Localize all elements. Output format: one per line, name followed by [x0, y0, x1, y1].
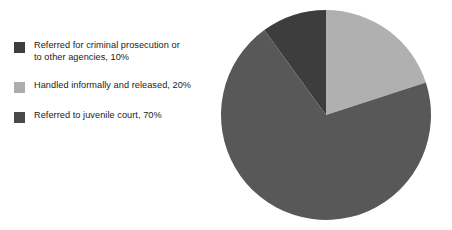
- legend-item-handled-informally: Handled informally and released, 20%: [14, 80, 214, 93]
- legend-label-handled-informally: Handled informally and released, 20%: [34, 80, 191, 92]
- legend-swatch-handled-informally-icon: [14, 82, 25, 93]
- legend-item-juvenile-court: Referred to juvenile court, 70%: [14, 110, 214, 123]
- legend-label-criminal-prosecution: Referred for criminal prosecution or to …: [34, 40, 180, 63]
- pie-chart-svg: [219, 4, 435, 226]
- pie-chart-figure: Referred for criminal prosecution or to …: [0, 0, 452, 230]
- pie-slice-group: [221, 10, 431, 220]
- legend-label-juvenile-court: Referred to juvenile court, 70%: [34, 110, 162, 122]
- chart-legend: Referred for criminal prosecution or to …: [14, 40, 214, 140]
- legend-item-criminal-prosecution: Referred for criminal prosecution or to …: [14, 40, 214, 63]
- legend-swatch-criminal-prosecution-icon: [14, 42, 25, 53]
- legend-swatch-juvenile-court-icon: [14, 112, 25, 123]
- pie-chart: [219, 4, 435, 226]
